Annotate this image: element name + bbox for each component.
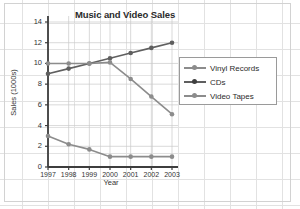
x-axis-tick-label: 2003 bbox=[160, 171, 184, 178]
data-point[interactable] bbox=[170, 112, 175, 117]
data-point[interactable] bbox=[108, 154, 113, 159]
data-point[interactable] bbox=[170, 154, 175, 159]
data-point[interactable] bbox=[66, 61, 71, 66]
data-point[interactable] bbox=[108, 60, 113, 65]
legend-label: CDs bbox=[210, 78, 226, 87]
chart-canvas: Music and Video Sales Sales (1000s) Year… bbox=[0, 0, 300, 209]
data-point[interactable] bbox=[149, 46, 154, 51]
data-point[interactable] bbox=[170, 40, 175, 45]
y-axis-tick-label: 6 bbox=[26, 100, 42, 109]
y-axis-tick-label: 10 bbox=[26, 58, 42, 67]
y-axis-tick-label: 0 bbox=[26, 162, 42, 171]
legend-label: Vinyl Records bbox=[210, 64, 259, 73]
y-axis-tick-label: 4 bbox=[26, 121, 42, 130]
chart-legend: Vinyl Records CDs Video Tapes bbox=[179, 57, 277, 105]
x-axis-title: Year bbox=[48, 178, 174, 187]
legend-item-video-tapes[interactable]: Video Tapes bbox=[180, 89, 276, 103]
data-point[interactable] bbox=[46, 71, 51, 76]
chart-title: Music and Video Sales bbox=[55, 9, 195, 20]
y-axis-tick-label: 2 bbox=[26, 141, 42, 150]
legend-line-icon bbox=[184, 91, 206, 101]
data-point[interactable] bbox=[149, 154, 154, 159]
data-point[interactable] bbox=[108, 56, 113, 61]
data-point[interactable] bbox=[66, 66, 71, 71]
data-point[interactable] bbox=[46, 61, 51, 66]
legend-line-icon bbox=[184, 63, 206, 73]
legend-label: Video Tapes bbox=[210, 92, 254, 101]
y-axis-tick-label: 8 bbox=[26, 79, 42, 88]
data-point[interactable] bbox=[46, 134, 51, 139]
legend-item-cds[interactable]: CDs bbox=[180, 75, 276, 89]
legend-line-icon bbox=[184, 77, 206, 87]
y-axis-title: Sales (1000s) bbox=[9, 63, 18, 123]
data-point[interactable] bbox=[128, 77, 133, 82]
data-point[interactable] bbox=[66, 142, 71, 147]
legend-item-vinyl-records[interactable]: Vinyl Records bbox=[180, 61, 276, 75]
data-point[interactable] bbox=[87, 61, 92, 66]
data-point[interactable] bbox=[149, 94, 154, 99]
data-point[interactable] bbox=[128, 154, 133, 159]
y-axis-tick-label: 12 bbox=[26, 38, 42, 47]
data-point[interactable] bbox=[128, 51, 133, 56]
data-point[interactable] bbox=[87, 147, 92, 152]
y-axis-tick-label: 14 bbox=[26, 17, 42, 26]
